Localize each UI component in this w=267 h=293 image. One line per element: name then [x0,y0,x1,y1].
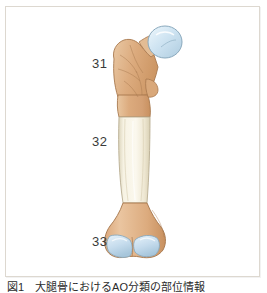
region-label-31: 31 [92,57,107,70]
region-label-32: 32 [92,135,107,148]
femoral-head [148,26,182,58]
femur-illustration [6,7,261,278]
femoral-shaft-group [119,117,150,203]
figure-caption: 図1 大腿骨におけるAO分類の部位情報 [7,281,259,293]
region-label-33: 33 [92,235,107,248]
proximal-femur-group [113,26,182,117]
distal-femur-group [105,203,166,258]
proximal-metaphysis [117,95,150,117]
figure-frame: 31 32 33 [5,6,260,277]
lesser-trochanter [146,79,158,97]
